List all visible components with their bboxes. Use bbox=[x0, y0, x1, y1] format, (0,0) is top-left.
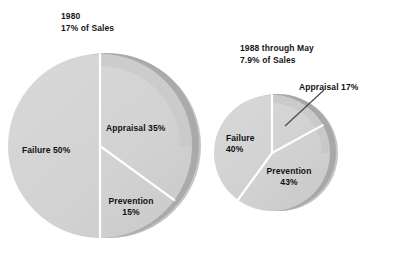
slice-label-1980-prevention-value: 15% bbox=[100, 207, 162, 218]
leader-line-appraisal bbox=[283, 88, 328, 128]
chart-title-1988-line1: 1988 through May bbox=[240, 43, 314, 55]
slice-label-1988-prevention-value: 43% bbox=[258, 177, 320, 188]
slice-label-1988-prevention: Prevention 43% bbox=[258, 166, 320, 188]
chart-title-1988: 1988 through May 7.9% of Sales bbox=[240, 43, 314, 66]
slice-label-1980-failure: Failure 50% bbox=[22, 145, 70, 156]
slice-label-1988-appraisal-text: Appraisal 17% bbox=[299, 82, 358, 93]
slice-label-1980-appraisal-text: Appraisal 35% bbox=[106, 123, 165, 134]
slice-label-1988-prevention-name: Prevention bbox=[258, 166, 320, 177]
slice-label-1988-failure: Failure 40% bbox=[226, 133, 255, 155]
chart-title-1988-line2: 7.9% of Sales bbox=[240, 55, 314, 67]
slice-label-1988-appraisal: Appraisal 17% bbox=[299, 82, 358, 93]
chart-title-1980: 1980 17% of Sales bbox=[61, 11, 114, 34]
slice-label-1988-failure-value: 40% bbox=[226, 144, 255, 155]
chart-title-1980-line2: 17% of Sales bbox=[61, 23, 114, 35]
slice-label-1980-prevention: Prevention 15% bbox=[100, 196, 162, 218]
quality-cost-pie-figure: 1980 17% of Sales 1988 through May 7.9% … bbox=[0, 0, 401, 254]
slice-label-1980-failure-text: Failure 50% bbox=[22, 145, 70, 156]
slice-label-1980-prevention-name: Prevention bbox=[100, 196, 162, 207]
slice-label-1980-appraisal: Appraisal 35% bbox=[106, 123, 165, 134]
chart-title-1980-line1: 1980 bbox=[61, 11, 114, 23]
slice-label-1988-failure-name: Failure bbox=[226, 133, 255, 144]
